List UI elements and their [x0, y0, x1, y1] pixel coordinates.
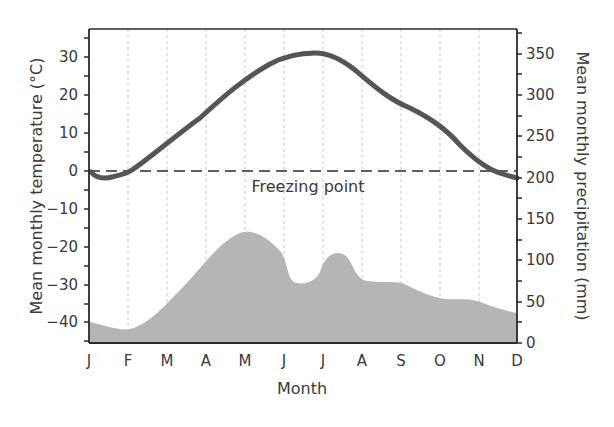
- right-tick-label: 250: [526, 127, 555, 145]
- month-label: S: [396, 352, 406, 370]
- month-label: A: [201, 352, 212, 370]
- y-right-axis-title: Mean monthly precipitation (mm): [573, 51, 592, 320]
- precipitation-area: [89, 232, 517, 343]
- x-axis-title: Month: [277, 379, 327, 398]
- month-label: F: [124, 352, 133, 370]
- right-tick-label: 200: [526, 169, 555, 187]
- left-tick-label: −20: [46, 238, 78, 256]
- right-tick-labels: 350 300 250 200 150 100 50 0: [526, 45, 555, 352]
- month-label: J: [320, 352, 325, 370]
- left-tick-label: −10: [46, 200, 78, 218]
- freezing-point-label: Freezing point: [252, 177, 365, 196]
- month-label: J: [281, 352, 286, 370]
- left-tick-label: 10: [59, 124, 78, 142]
- month-label: M: [161, 352, 174, 370]
- left-tick-label: 30: [59, 48, 78, 66]
- month-label: N: [473, 352, 484, 370]
- right-tick-label: 150: [526, 210, 555, 228]
- left-tick-label: −40: [46, 313, 78, 331]
- right-tick-label: 0: [526, 334, 536, 352]
- right-tick-label: 50: [526, 293, 545, 311]
- climate-chart: 30 20 10 0 −10 −20 −30 −40 350 300 250 2…: [0, 0, 614, 427]
- month-labels: J F M A M J J A S O N D: [86, 352, 523, 370]
- month-label: J: [86, 352, 91, 370]
- right-tick-label: 300: [526, 86, 555, 104]
- left-tick-label: 20: [59, 86, 78, 104]
- month-label: M: [239, 352, 252, 370]
- right-tick-label: 100: [526, 251, 555, 269]
- temperature-line: [91, 53, 517, 178]
- y-left-axis-title: Mean monthly temperature (°C): [27, 58, 46, 315]
- left-tick-label: 0: [68, 162, 78, 180]
- left-tick-label: −30: [46, 276, 78, 294]
- month-label: O: [434, 352, 446, 370]
- month-label: A: [357, 352, 368, 370]
- right-tick-label: 350: [526, 45, 555, 63]
- left-tick-labels: 30 20 10 0 −10 −20 −30 −40: [46, 48, 78, 331]
- month-label: D: [511, 352, 523, 370]
